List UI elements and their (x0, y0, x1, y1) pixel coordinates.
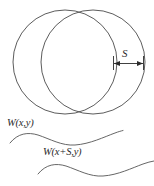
wavefront-original-label: W(x,y) (7, 118, 34, 129)
arrow-head-right-icon (137, 61, 143, 66)
right-beam-circle (41, 10, 145, 114)
wavefront-curve-original (10, 131, 123, 146)
wavefront-sheared-label: W(x+S,y) (43, 147, 81, 158)
left-beam-circle (13, 10, 117, 114)
shear-dimension-arrow (114, 56, 144, 70)
shear-label: S (122, 48, 127, 59)
figure-canvas: S W(x,y) W(x+S,y) (0, 0, 154, 186)
wavefront-curve-sheared (38, 161, 154, 176)
figure-vector-layer (0, 0, 154, 186)
